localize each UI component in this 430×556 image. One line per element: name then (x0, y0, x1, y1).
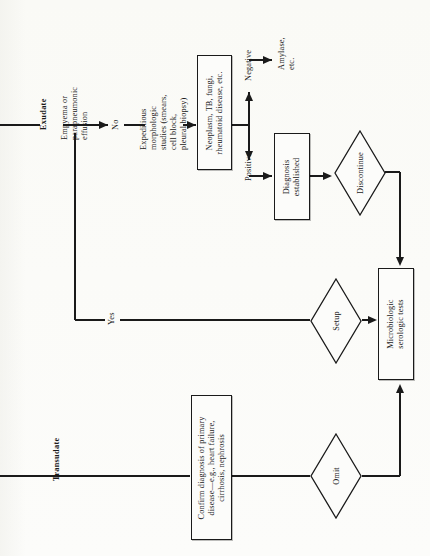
arrowhead-to-no (99, 121, 108, 129)
node-microbiologic: Microbiologicserologic tests (378, 268, 414, 380)
arrowhead-to-microbiologic-left (368, 316, 377, 324)
node-discontinue: Discontinue (334, 130, 386, 216)
node-setup-label: Setup (332, 311, 341, 331)
arrowhead-to-microbiologic-top (396, 257, 404, 266)
node-omit-label: Omit (332, 467, 341, 485)
arrowhead-to-neoplasm (187, 121, 196, 129)
node-diagnosis-established: Diagnosisestablished (274, 133, 310, 220)
arrowhead-to-negative (245, 92, 253, 101)
flowchart-figure: Exudate Empyema orparapneumoniceffusion … (0, 0, 430, 556)
node-omit: Omit (310, 433, 362, 519)
node-discontinue-label: Discontinue (356, 152, 365, 194)
arrowhead-to-diagnosis (263, 172, 272, 180)
arrowhead-to-microbiologic-bottom (396, 384, 404, 393)
node-setup: Setup (310, 278, 362, 364)
node-neoplasm: Neoplasm, TB, fungi,rheumatoid disease, … (197, 55, 232, 170)
arrowhead-to-discontinue (323, 172, 332, 180)
arrowhead-to-amylase (263, 56, 272, 64)
node-confirm-diagnosis: Confirm diagnosis of primarydisease—e.g.… (191, 395, 232, 540)
